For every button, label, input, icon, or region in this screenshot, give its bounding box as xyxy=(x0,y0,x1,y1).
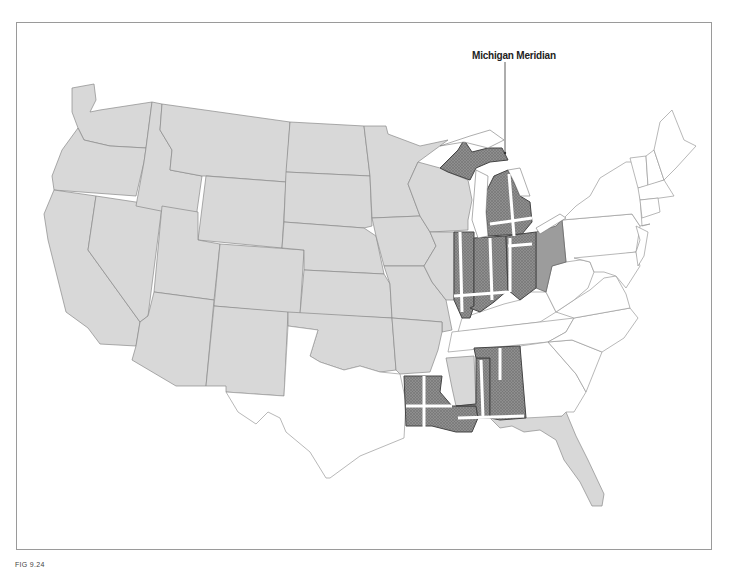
state-colorado xyxy=(214,244,304,314)
us-map xyxy=(0,0,734,572)
state-south-dakota xyxy=(284,172,372,228)
figure-label: FIG 9.24 xyxy=(15,561,45,568)
state-wyoming xyxy=(198,176,286,248)
state-north-dakota xyxy=(286,122,370,176)
state-illinois-east xyxy=(454,232,474,318)
state-montana xyxy=(160,104,290,182)
third-pm-line xyxy=(460,232,462,312)
st-stephens-meridian-line xyxy=(481,360,483,418)
lake-michigan xyxy=(472,170,488,238)
state-maine xyxy=(654,110,696,180)
state-kansas xyxy=(300,270,392,318)
state-new-jersey xyxy=(636,226,648,266)
st-stephens-baseline-line xyxy=(458,416,524,418)
callout-michigan-meridian: Michigan Meridian xyxy=(472,50,556,61)
lake-superior xyxy=(440,130,504,148)
state-connecticut xyxy=(640,198,660,218)
state-new-mexico xyxy=(206,306,288,396)
ohio-baseline-line xyxy=(508,244,532,246)
state-florida xyxy=(490,412,604,506)
state-arkansas xyxy=(392,318,442,374)
callout-leader-dot xyxy=(504,152,506,154)
state-washington xyxy=(72,84,152,148)
second-pm-line xyxy=(490,238,492,300)
state-mississippi-north xyxy=(446,356,476,406)
